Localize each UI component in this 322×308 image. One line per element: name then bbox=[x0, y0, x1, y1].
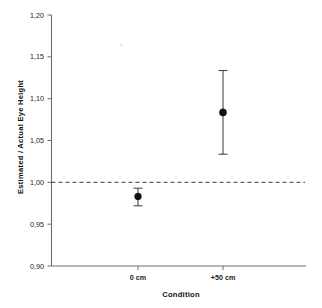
y-tick-label-105: 1,05 bbox=[30, 136, 44, 145]
y-tick-label-095: 0,95 bbox=[30, 220, 44, 229]
scan-artifact-speck bbox=[119, 43, 122, 46]
x-axis-title: Condition bbox=[162, 290, 200, 299]
y-tick-label-115: 1,15 bbox=[30, 52, 44, 61]
data-marker-0cm bbox=[135, 193, 142, 200]
y-tick-label-120: 1,20 bbox=[30, 11, 44, 20]
plot-background bbox=[0, 0, 322, 308]
y-tick-label-090: 0,90 bbox=[30, 262, 44, 271]
data-marker-plus50cm bbox=[219, 109, 226, 116]
chart-figure: 1,20 1,15 1,10 1,05 1,00 0,95 0,90 Estim… bbox=[0, 0, 322, 308]
x-tick-label-0cm: 0 cm bbox=[130, 273, 146, 282]
x-tick-label-plus50cm: +50 cm bbox=[211, 273, 236, 282]
scatter-plot-with-error-bars: 1,20 1,15 1,10 1,05 1,00 0,95 0,90 Estim… bbox=[0, 0, 322, 308]
y-tick-label-110: 1,10 bbox=[30, 94, 44, 103]
y-tick-label-100: 1,00 bbox=[30, 178, 44, 187]
y-axis-title: Estimated / Actual Eye Height bbox=[16, 80, 25, 194]
